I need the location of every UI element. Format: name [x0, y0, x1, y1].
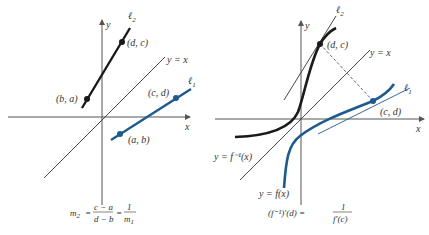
- svg-text:=: =: [85, 208, 91, 218]
- right-tangent-l2: [284, 16, 336, 100]
- right-x-axis-label: x: [415, 123, 421, 134]
- left-point-cd-label: (c, d): [148, 87, 170, 99]
- right-line-y-equals-x-label: y = x: [369, 47, 391, 58]
- left-line-l2-label: ℓ2: [128, 10, 136, 24]
- svg-text:1: 1: [127, 202, 132, 212]
- inverse-function-diagram: y x y = x (d, c) (b, a) ℓ2 (c, d) (a, b)…: [0, 0, 429, 235]
- right-point-dc-label: (d, c): [327, 39, 349, 51]
- right-line-l2-label: ℓ2: [336, 4, 344, 18]
- right-line-l1-label: ℓ1: [404, 82, 412, 96]
- left-point-ab-label: (a, b): [128, 134, 150, 146]
- curve-f-label: y = f(x): [258, 188, 290, 200]
- right-derivative-formula: (f⁻¹)′(d) = 1 f′(c): [268, 202, 352, 224]
- right-point-cd: [370, 98, 376, 104]
- svg-text:(f⁻¹)′(d) =: (f⁻¹)′(d) =: [268, 208, 305, 218]
- left-point-dc-label: (d, c): [127, 37, 149, 49]
- svg-text:c − a: c − a: [94, 202, 114, 212]
- left-point-ab: [117, 131, 123, 137]
- right-point-dc: [317, 41, 323, 47]
- svg-text:f′(c): f′(c): [333, 214, 347, 224]
- left-line-y-equals-x-label: y = x: [166, 54, 188, 65]
- svg-text:1: 1: [341, 202, 346, 212]
- right-panel: y x y = x ℓ2 (d, c) y = f⁻¹(x) ℓ1 (c, d)…: [213, 4, 424, 224]
- left-slope-formula: m2 = c − a d − b = 1 m1: [70, 202, 136, 226]
- left-line-l1-label: ℓ1: [188, 75, 196, 89]
- left-point-ba-label: (b, a): [56, 93, 78, 105]
- left-point-ba: [84, 96, 90, 102]
- curve-f-inverse-label: y = f⁻¹(x): [213, 151, 253, 163]
- svg-text:m2: m2: [70, 208, 81, 220]
- left-y-axis-label: y: [105, 19, 111, 30]
- right-line-y-equals-x: [240, 50, 370, 180]
- svg-text:=: =: [116, 208, 122, 218]
- svg-text:d − b: d − b: [94, 214, 114, 224]
- right-y-axis-label: y: [304, 20, 310, 31]
- left-x-axis-label: x: [184, 121, 190, 132]
- left-point-cd: [173, 95, 179, 101]
- left-point-dc: [119, 39, 125, 45]
- right-point-cd-label: (c, d): [380, 106, 402, 118]
- svg-text:m1: m1: [124, 214, 134, 226]
- left-panel: y x y = x (d, c) (b, a) ℓ2 (c, d) (a, b)…: [8, 10, 196, 226]
